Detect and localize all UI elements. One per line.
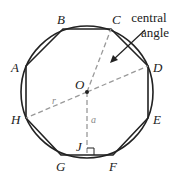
- radius-oh: [26, 92, 87, 118]
- vertex-label-a: A: [10, 60, 19, 75]
- vertex-label-b: B: [57, 12, 65, 27]
- center-label: O: [75, 77, 85, 92]
- vertex-label-g: G: [56, 159, 66, 174]
- radius-od: [87, 66, 148, 92]
- radius-label: r: [52, 95, 56, 106]
- foot-label: J: [76, 139, 83, 154]
- annotation-line2: angle: [141, 25, 169, 40]
- vertex-label-d: D: [152, 60, 163, 75]
- vertex-label-e: E: [152, 112, 161, 127]
- vertex-label-c: C: [112, 12, 121, 27]
- right-angle-marker: [87, 148, 94, 155]
- radius-oc: [87, 29, 111, 92]
- center-point: [85, 90, 89, 94]
- apothem-label: a: [91, 114, 96, 125]
- vertex-label-h: H: [10, 112, 21, 127]
- annotation-line1: central: [131, 10, 167, 25]
- octagon-diagram: central angle ABCDEFGH O J r a: [0, 0, 189, 177]
- vertex-label-f: F: [108, 159, 118, 174]
